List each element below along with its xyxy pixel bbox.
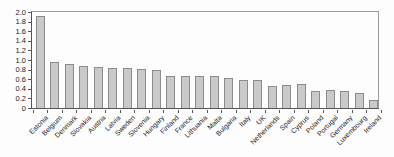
bar-italy [239,80,248,108]
x-axis-tick [163,110,164,113]
x-axis-tick [76,110,77,113]
y-axis-tick-label: 1.2 [0,47,26,55]
y-axis-tick [28,89,31,90]
bar-malta [210,76,219,108]
bar-latvia [108,68,117,108]
y-axis-tick-label: 0.2 [0,95,26,103]
x-axis-tick [366,110,367,113]
bar-spain [282,85,291,108]
bar-slovakia [79,66,88,108]
bar-chart-figure: 00.20.40.60.81.01.21.41.61.82.0 EstoniaB… [0,0,394,157]
y-axis-tick [28,79,31,80]
x-axis-tick [47,110,48,113]
bar-estonia [36,16,45,108]
y-axis-tick [28,22,31,23]
y-axis-tick-label: 1.4 [0,37,26,45]
x-axis-tick [236,110,237,113]
x-axis-tick [105,110,106,113]
y-axis-tick [28,50,31,51]
bar-netherlands [268,86,277,108]
x-axis-tick [134,110,135,113]
x-axis-tick [149,110,150,113]
x-axis-tick [279,110,280,113]
bar-belgium [50,62,59,108]
y-axis-tick-label: 1.0 [0,57,26,65]
x-axis-tick [381,110,382,113]
y-axis-tick [28,108,31,109]
x-axis-tick [323,110,324,113]
bar-france [181,76,190,108]
y-axis-tick-label: 2.0 [0,9,26,17]
bar-bulgaria [224,78,233,108]
x-axis-tick [352,110,353,113]
x-axis-tick [221,110,222,113]
bar-cyprus [297,84,306,108]
x-axis-tick [178,110,179,113]
y-axis-tick [28,98,31,99]
x-axis-tick [91,110,92,113]
plot-area [31,11,379,109]
y-axis-tick-label: 0 [0,105,26,113]
bar-portugal [326,90,335,108]
x-axis-tick [250,110,251,113]
bar-poland [311,91,320,108]
bar-slovenia [137,69,146,108]
y-axis-tick-label: 0.6 [0,76,26,84]
bar-austria [94,67,103,108]
bar-uk [253,80,262,108]
x-axis-tick [33,110,34,113]
y-axis-tick-label: 0.8 [0,66,26,74]
bar-luxembourg [355,93,364,108]
x-axis-category-label: Italy [238,114,253,129]
bar-sweden [123,68,132,108]
bar-germany [340,91,349,108]
x-axis-tick [120,110,121,113]
y-axis-tick [28,60,31,61]
y-axis-tick [28,41,31,42]
bar-hungary [152,70,161,108]
x-axis-tick [265,110,266,113]
bar-denmark [65,64,74,108]
y-axis-tick [28,12,31,13]
x-axis-tick [294,110,295,113]
x-axis-tick [308,110,309,113]
y-axis-tick-label: 1.6 [0,28,26,36]
bar-lithuania [195,76,204,108]
x-axis-tick [192,110,193,113]
y-axis-tick [28,70,31,71]
bar-finland [166,76,175,108]
y-axis-tick [28,31,31,32]
x-axis-tick [207,110,208,113]
y-axis-tick-label: 1.8 [0,18,26,26]
bar-ireland [369,100,378,108]
x-axis-tick [337,110,338,113]
y-axis-tick-label: 0.4 [0,85,26,93]
x-axis-tick [62,110,63,113]
